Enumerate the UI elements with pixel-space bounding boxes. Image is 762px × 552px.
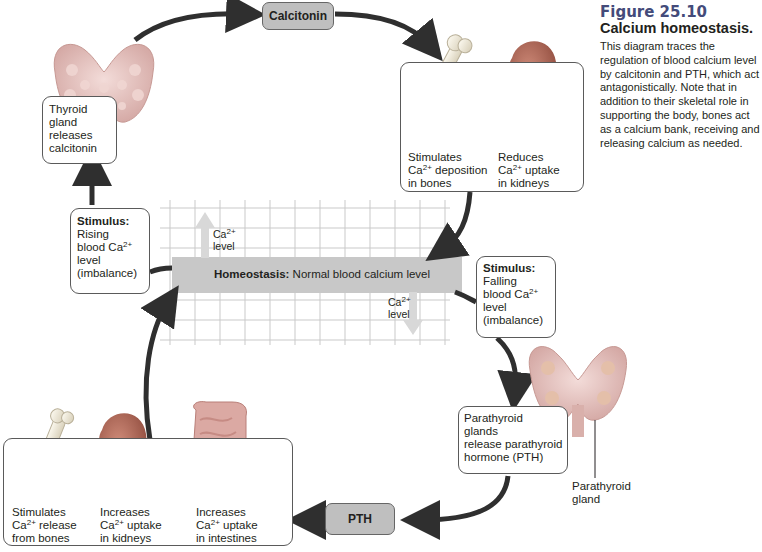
stimulus-falling-text: Stimulus: Falling blood Ca2+ level (imba… bbox=[483, 262, 543, 327]
ca-level-up-label: Ca2+ level bbox=[213, 228, 236, 252]
effect-kidney-reduce: Reduces Ca2+ uptake in kidneys bbox=[498, 151, 560, 190]
effect-bone-release: Stimulates Ca2+ release from bones bbox=[12, 506, 77, 545]
arrow-parathyroid-to-pth bbox=[420, 476, 508, 520]
arrow-falling-to-parathyroid bbox=[497, 338, 516, 392]
figure-title: Calcium homeostasis. bbox=[600, 20, 753, 36]
figure-number: Figure 25.10 bbox=[600, 3, 707, 21]
arrow-effects-to-homeostasis-lower bbox=[146, 302, 168, 440]
effect-bone-deposition: Stimulates Ca2+ deposition in bones bbox=[408, 151, 487, 190]
ca-rising-arrow bbox=[195, 212, 215, 258]
calcitonin-hormone-label: Calcitonin bbox=[262, 2, 334, 30]
effect-intestine-increase: Increases Ca2+ uptake in intestines bbox=[196, 506, 258, 545]
parathyroid-gland-label: Parathyroid gland bbox=[572, 480, 631, 506]
arrow-effects-to-homeostasis bbox=[442, 192, 470, 250]
figure-caption: This diagram traces the regulation of bl… bbox=[600, 40, 760, 150]
ca-level-down-label: Ca2+ level bbox=[388, 296, 411, 320]
arrow-homeostasis-to-rising bbox=[150, 268, 172, 272]
arrow-calcitonin-to-effects bbox=[335, 14, 430, 46]
thyroid-text: Thyroid gland releases calcitonin bbox=[49, 103, 97, 155]
arrow-homeostasis-to-falling bbox=[455, 292, 476, 302]
stimulus-rising-text: Stimulus: Rising blood Ca2+ level (imbal… bbox=[77, 215, 137, 280]
pth-hormone-label: PTH bbox=[325, 503, 395, 535]
arrow-thyroid-to-calcitonin bbox=[135, 14, 246, 40]
parathyroid-text: Parathyroid glands release parathyroid h… bbox=[464, 412, 562, 464]
homeostasis-label: Homeostasis: Normal blood calcium level bbox=[214, 268, 430, 281]
effect-kidney-increase: Increases Ca2+ uptake in kidneys bbox=[100, 506, 162, 545]
